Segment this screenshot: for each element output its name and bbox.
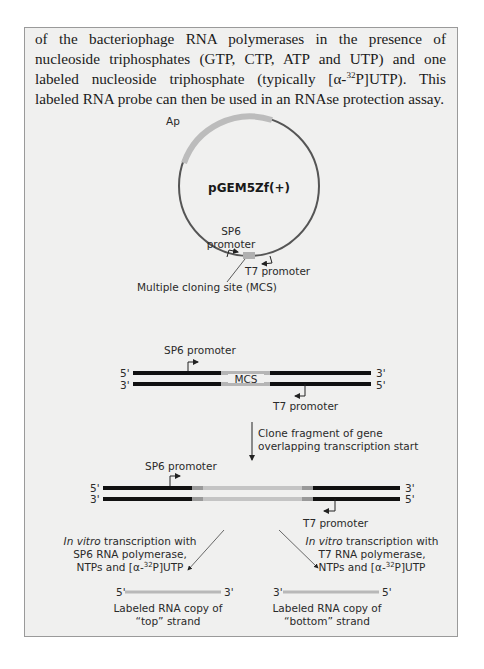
right-line-3-sup: 32 bbox=[386, 561, 395, 569]
right-line-2: T7 RNA polymerase, bbox=[317, 548, 425, 560]
end-5prime: 5' bbox=[405, 493, 415, 505]
mcs-label: Multiple cloning site (MCS) bbox=[137, 281, 277, 293]
plasmid-map: Ap pGEM5Zf(+) SP6 promoter T7 promoter M… bbox=[137, 115, 319, 293]
rna-end-5prime: 5' bbox=[382, 586, 392, 598]
end-3prime: 3' bbox=[120, 379, 130, 391]
right-line-1: transcription with bbox=[343, 535, 439, 547]
sp6-promoter-label: SP6 promoter bbox=[164, 344, 236, 356]
in-vitro-italic: In vitro bbox=[306, 535, 343, 547]
svg-text:NTPs and [α-32P]UTP: NTPs and [α-32P]UTP bbox=[77, 561, 184, 573]
left-line-3-post: P]UTP bbox=[153, 561, 184, 573]
rna-end-3prime: 3' bbox=[273, 586, 283, 598]
left-line-3-pre: NTPs and [α- bbox=[77, 561, 144, 573]
rna-end-3prime: 3' bbox=[224, 586, 234, 598]
step-line-2: overlapping transcription start bbox=[258, 440, 418, 452]
svg-text:In vitro transcription with: In vitro transcription with bbox=[64, 535, 197, 547]
svg-text:NTPs and [α-32P]UTP: NTPs and [α-32P]UTP bbox=[319, 561, 426, 573]
diagram: Ap pGEM5Zf(+) SP6 promoter T7 promoter M… bbox=[0, 0, 484, 669]
right-line-3-pre: NTPs and [α- bbox=[319, 561, 386, 573]
duplex-1: SP6 promoter 5' 3' MCS 3' 5' T7 promoter bbox=[120, 344, 386, 412]
in-vitro-italic: In vitro bbox=[64, 535, 101, 547]
rna-end-5prime: 5' bbox=[116, 586, 126, 598]
left-line-3-sup: 32 bbox=[144, 561, 153, 569]
right-caption-1: Labeled RNA copy of bbox=[273, 602, 382, 614]
sp6-promoter-label: SP6 promoter bbox=[145, 460, 217, 472]
sp6-label-2: promoter bbox=[207, 238, 256, 250]
right-caption-2: “bottom” strand bbox=[284, 615, 370, 627]
left-line-1: transcription with bbox=[101, 535, 197, 547]
mcs-box bbox=[243, 252, 255, 259]
t7-promoter-label: T7 promoter bbox=[272, 400, 339, 412]
end-5prime: 5' bbox=[120, 367, 130, 379]
ap-gene-segment bbox=[184, 116, 272, 163]
right-line-3-post: P]UTP bbox=[395, 561, 426, 573]
t7-label: T7 promoter bbox=[244, 265, 311, 277]
mcs-pointer bbox=[227, 259, 245, 282]
left-line-2: SP6 RNA polymerase, bbox=[73, 548, 187, 560]
ap-label: Ap bbox=[166, 115, 180, 127]
end-3prime: 3' bbox=[90, 493, 100, 505]
left-caption-1: Labeled RNA copy of bbox=[114, 602, 223, 614]
svg-text:In vitro transcription with: In vitro transcription with bbox=[306, 535, 439, 547]
left-caption-2: “top” strand bbox=[135, 615, 200, 627]
end-3prime: 3' bbox=[376, 367, 386, 379]
sp6-label-1: SP6 bbox=[221, 225, 241, 237]
left-branch: In vitro transcription with SP6 RNA poly… bbox=[64, 535, 234, 627]
end-5prime: 5' bbox=[376, 379, 386, 391]
right-branch: In vitro transcription with T7 RNA polym… bbox=[273, 535, 439, 627]
plasmid-name: pGEM5Zf(+) bbox=[208, 181, 290, 195]
t7-arrow-icon bbox=[262, 256, 272, 264]
step-line-1: Clone fragment of gene bbox=[258, 427, 383, 439]
duplex-2: SP6 promoter 5' 3' 3' 5' T7 promoter bbox=[90, 460, 415, 529]
t7-promoter-label: T7 promoter bbox=[302, 517, 369, 529]
mcs-label: MCS bbox=[234, 373, 257, 385]
